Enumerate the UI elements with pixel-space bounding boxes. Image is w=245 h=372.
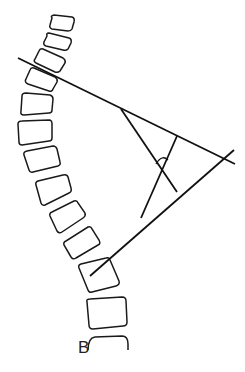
vertebra-2 xyxy=(44,33,72,50)
vertebra-8 xyxy=(36,175,72,206)
vertebra-5 xyxy=(21,93,53,115)
vertebra-11 xyxy=(79,258,119,293)
vertebra-6 xyxy=(18,120,52,145)
vertebra-13 xyxy=(88,336,128,350)
vertebra-9 xyxy=(50,201,86,233)
vertebra-1 xyxy=(50,15,75,31)
upper-endplate-line xyxy=(18,58,235,164)
vertebra-10 xyxy=(64,227,100,259)
cobb-angle-diagram xyxy=(0,0,245,372)
figure-label: B xyxy=(78,338,89,358)
vertebra-12 xyxy=(87,297,127,329)
vertebra-7 xyxy=(24,146,60,172)
